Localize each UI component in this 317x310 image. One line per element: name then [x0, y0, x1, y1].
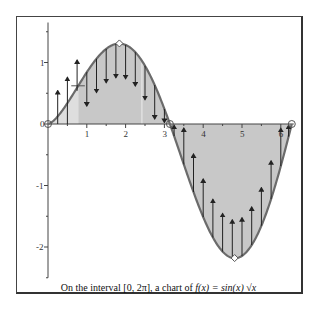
- caption-middle: , a chart of: [150, 282, 193, 293]
- shaded-area: [78, 44, 292, 259]
- x-tick-label: 2: [124, 129, 129, 139]
- caption-function: f(x) = sin(x) √x: [195, 282, 256, 293]
- x-tick-label: 3: [162, 129, 167, 139]
- y-tick-label: 1: [40, 58, 45, 68]
- y-tick-label: -2: [36, 242, 44, 252]
- x-tick-label: 1: [85, 129, 90, 139]
- caption-prefix: On the interval: [61, 282, 121, 293]
- caption-interval: [0, 2π]: [123, 282, 150, 293]
- chart-caption: On the interval [0, 2π], a chart of f(x)…: [0, 282, 317, 293]
- x-tick-label: 5: [240, 129, 245, 139]
- x-tick-label: 4: [201, 129, 206, 139]
- plot-area: 12345610-1-2: [0, 0, 317, 310]
- y-tick-label: -1: [36, 181, 44, 191]
